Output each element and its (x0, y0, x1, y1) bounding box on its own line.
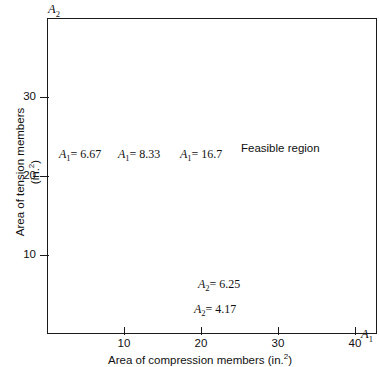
feasible-region-label: Feasible region (238, 141, 323, 155)
y-tick-label-20: 20 (10, 169, 36, 181)
callout-a2-4.17: A2= 4.17 (192, 303, 238, 319)
x-axis-title: Area of compression members (in.2) (108, 352, 292, 366)
x-tick-30 (278, 327, 279, 335)
y-tick-label-30: 30 (10, 90, 36, 102)
x-axis-variable-subscript: 1 (369, 334, 373, 344)
y-axis-variable-letter: A (48, 2, 56, 16)
figure-root: A2 Area of tension members (in.2) (0, 0, 379, 367)
y-tick-30 (40, 97, 49, 98)
y-tick-10 (40, 255, 49, 256)
callout-a1-8.33: A1= 8.33 (116, 148, 162, 164)
callout-a1-16.7: A1= 16.7 (178, 148, 224, 164)
x-axis-variable-label: A1 (361, 327, 373, 344)
x-tick-40 (355, 327, 356, 335)
y-tick-20 (40, 176, 49, 177)
x-tick-20 (201, 327, 202, 335)
x-tick-label-10: 10 (109, 337, 139, 349)
y-axis-variable-subscript: 2 (56, 9, 60, 19)
y-tick-label-10: 10 (10, 248, 36, 260)
callout-a2-6.25: A2= 6.25 (196, 278, 242, 294)
x-tick-10 (124, 327, 125, 335)
callout-a1-6.67: A1= 6.67 (57, 148, 103, 164)
x-axis-variable-letter: A (361, 327, 369, 341)
x-tick-label-30: 30 (263, 337, 293, 349)
x-tick-label-20: 20 (186, 337, 216, 349)
y-axis-variable-label: A2 (48, 2, 60, 19)
